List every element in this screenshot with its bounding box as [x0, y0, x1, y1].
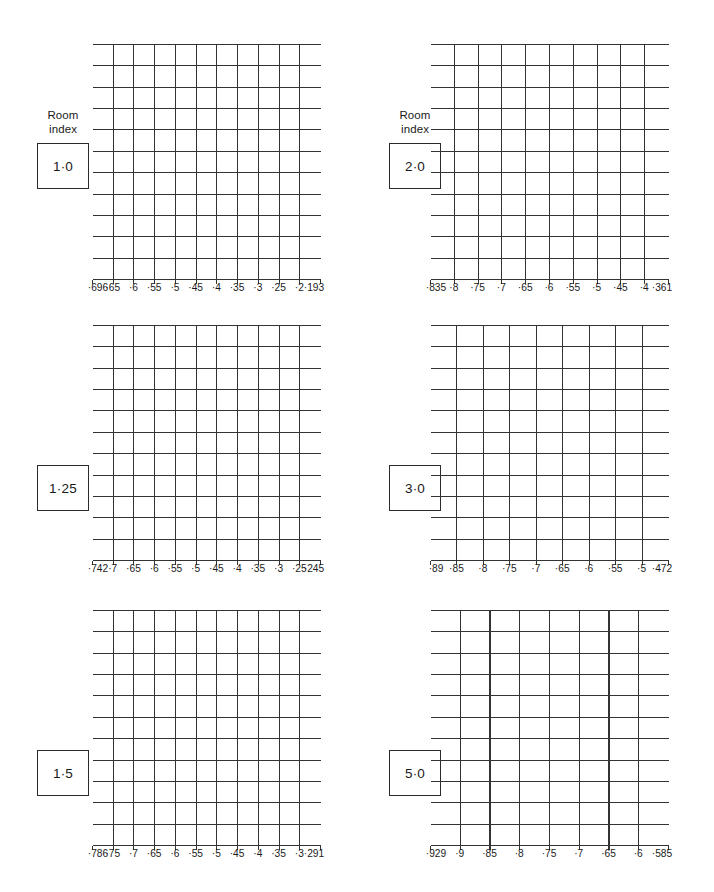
x-tick-label: ·8	[449, 281, 458, 295]
x-tick-label: ·75	[542, 847, 557, 861]
x-tick-label: ·65	[147, 847, 162, 861]
x-tick-label: ·585	[652, 847, 672, 861]
chart-grid-4	[92, 610, 322, 851]
x-tick-label: ·2	[295, 281, 304, 295]
x-tick-label: ·35	[271, 847, 286, 861]
grid-svg	[92, 325, 322, 566]
x-axis-tick-labels-5: ·929·9·85·8·75·7·65·6·585	[430, 847, 668, 861]
x-tick-label: ·5	[212, 847, 221, 861]
x-tick-label: ·6	[129, 281, 138, 295]
grid-svg	[430, 325, 670, 566]
x-tick-label: ·35	[230, 281, 245, 295]
x-tick-label: ·9	[455, 847, 464, 861]
room-index-value-box: 1·0	[37, 143, 89, 189]
x-tick-label: ·75	[105, 847, 120, 861]
x-tick-label: ·7	[129, 847, 138, 861]
x-tick-label: ·742	[88, 562, 108, 576]
x-tick-label: ·45	[188, 281, 203, 295]
x-tick-label: ·7	[531, 562, 540, 576]
x-tick-label: ·75	[502, 562, 517, 576]
x-tick-label: ·65	[518, 281, 533, 295]
x-axis-tick-labels-4: ·786·75·7·65·6·55·5·45·4·35·3·291	[92, 847, 320, 861]
x-tick-label: ·4	[253, 847, 262, 861]
x-tick-label: ·472	[652, 562, 672, 576]
x-tick-label: ·85	[482, 847, 497, 861]
x-tick-label: ·55	[147, 281, 162, 295]
x-axis-tick-labels-0: ·696·65·6·55·5·45·4·35·3·25·2·193	[92, 281, 320, 295]
x-tick-label: ·65	[555, 562, 570, 576]
x-tick-label: ·75	[470, 281, 485, 295]
x-tick-label: ·8	[515, 847, 524, 861]
x-tick-label: ·3	[295, 847, 304, 861]
x-tick-label: ·65	[601, 847, 616, 861]
x-tick-label: ·85	[449, 562, 464, 576]
x-tick-label: ·835	[426, 281, 446, 295]
x-tick-label: ·55	[565, 281, 580, 295]
x-tick-label: ·245	[304, 562, 324, 576]
chart-grid-2	[92, 325, 322, 566]
x-tick-label: ·4	[212, 281, 221, 295]
x-tick-label: ·55	[608, 562, 623, 576]
x-tick-label: ·8	[478, 562, 487, 576]
x-tick-label: ·5	[592, 281, 601, 295]
x-tick-label: ·3	[253, 281, 262, 295]
chart-grid-1	[430, 44, 670, 285]
x-tick-label: ·65	[105, 281, 120, 295]
chart-grid-0	[92, 44, 322, 285]
x-axis-tick-labels-3: ·89·85·8·75·7·65·6·55·5·472	[430, 562, 668, 576]
x-tick-label: ·7	[108, 562, 117, 576]
x-tick-label: ·193	[304, 281, 324, 295]
x-tick-label: ·6	[150, 562, 159, 576]
x-tick-label: ·7	[497, 281, 506, 295]
x-tick-label: ·6	[634, 847, 643, 861]
x-tick-label: ·25	[271, 281, 286, 295]
x-tick-label: ·361	[652, 281, 672, 295]
chart-grid-3	[430, 325, 670, 566]
room-index-value-box: 1·5	[37, 750, 89, 796]
x-tick-label: ·35	[250, 562, 265, 576]
x-tick-label: ·5	[170, 281, 179, 295]
x-tick-label: ·4	[233, 562, 242, 576]
x-tick-label: ·45	[230, 847, 245, 861]
x-tick-label: ·55	[188, 847, 203, 861]
x-axis-tick-labels-1: ·835·8·75·7·65·6·55·5·45·4·361	[430, 281, 668, 295]
x-tick-label: ·3	[274, 562, 283, 576]
grid-svg	[430, 44, 670, 285]
x-tick-label: ·7	[574, 847, 583, 861]
x-tick-label: ·4	[640, 281, 649, 295]
room-index-value-box: 1·25	[37, 465, 89, 511]
chart-grid-5	[430, 610, 670, 851]
x-tick-label: ·6	[544, 281, 553, 295]
figure-sheet: Roomindex1·0·696·65·6·55·5·45·4·35·3·25·…	[0, 0, 714, 892]
x-tick-label: ·291	[304, 847, 324, 861]
x-tick-label: ·89	[429, 562, 444, 576]
x-tick-label: ·5	[191, 562, 200, 576]
x-tick-label: ·6	[584, 562, 593, 576]
grid-svg	[430, 610, 670, 851]
x-tick-label: ·45	[613, 281, 628, 295]
x-axis-tick-labels-2: ·742·7·65·6·55·5·45·4·35·3·25·245	[92, 562, 320, 576]
x-tick-label: ·65	[126, 562, 141, 576]
grid-svg	[92, 44, 322, 285]
grid-svg	[92, 610, 322, 851]
x-tick-label: ·45	[209, 562, 224, 576]
x-tick-label: ·6	[170, 847, 179, 861]
x-tick-label: ·5	[637, 562, 646, 576]
x-tick-label: ·929	[426, 847, 446, 861]
x-tick-label: ·55	[168, 562, 183, 576]
